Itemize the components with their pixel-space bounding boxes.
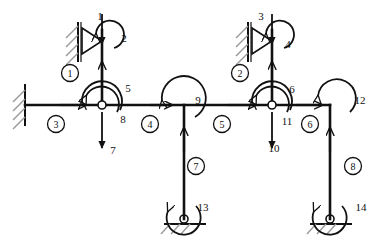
- dof-label-8: 8: [120, 113, 126, 125]
- dof-label-11: 11: [282, 115, 293, 127]
- dof-label-5: 5: [125, 82, 131, 94]
- joint-right-hinge: [268, 101, 276, 109]
- support-wall-left: [13, 84, 25, 129]
- element-label-7: 7: [194, 161, 199, 172]
- element-number-circles: [48, 65, 362, 175]
- dof-label-12: 12: [355, 94, 366, 106]
- frame-diagram: 1 2 3 4 5 6 7 8 1 2 3 4 5 6 7 8 9 10 11 …: [0, 0, 387, 241]
- element-label-1: 1: [68, 68, 73, 79]
- joint-left-hinge: [98, 101, 106, 109]
- element-label-8: 8: [351, 161, 356, 172]
- dof-label-3: 3: [258, 10, 264, 22]
- dof-label-7: 7: [110, 144, 116, 156]
- element-label-6: 6: [308, 119, 313, 130]
- dof-label-1: 1: [97, 10, 103, 22]
- moment-arc-dof-12: [318, 79, 356, 112]
- dof-label-6: 6: [289, 83, 295, 95]
- dof-force-arrows: [102, 14, 272, 148]
- dof-label-13: 13: [198, 201, 210, 213]
- moment-arc-dof-2: [96, 21, 124, 48]
- element-label-2: 2: [238, 68, 243, 79]
- dof-label-14: 14: [356, 201, 368, 213]
- element-label-4: 4: [148, 119, 153, 130]
- element-label-3: 3: [54, 119, 59, 130]
- dof-label-4: 4: [285, 38, 291, 50]
- dof-label-10: 10: [269, 142, 281, 154]
- dof-label-9: 9: [195, 94, 201, 106]
- dof-label-2: 2: [121, 32, 127, 44]
- element-label-5: 5: [220, 119, 225, 130]
